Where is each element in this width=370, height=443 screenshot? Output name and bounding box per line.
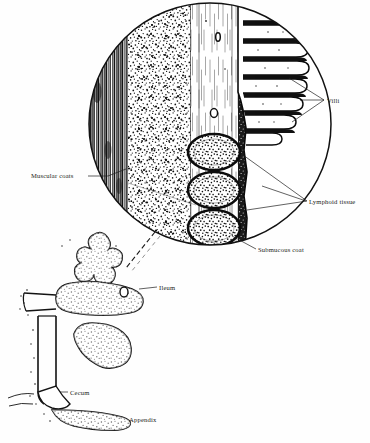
lymphoid-follicle: [188, 172, 240, 208]
ileum-vessel-section: [120, 287, 128, 297]
lymphoid-follicles-group: [188, 134, 240, 246]
label-appendix: Appendix: [129, 416, 156, 423]
label-villi: Villi: [327, 97, 340, 104]
label-submucous-coat: Submucous coat: [258, 246, 304, 253]
muscular-coats-layer: [80, 0, 128, 250]
mucous-coat-layer: [128, 0, 191, 250]
figure-canvas: [0, 0, 370, 443]
inset-circle-group: [80, 0, 350, 250]
lymphoid-follicle: [188, 210, 240, 246]
label-ileum: Ileum: [159, 284, 175, 291]
anatomy-figure: Villi Lymphoid tissue Submucous coat Mus…: [0, 0, 370, 443]
organ-drawing: [8, 233, 143, 431]
label-cecum: Cecum: [70, 389, 90, 396]
label-muscular-coats: Muscular coats: [31, 172, 74, 179]
inset-connector: [126, 232, 160, 272]
label-lymphoid-tissue: Lymphoid tissue: [309, 198, 355, 205]
lymphoid-follicle: [188, 134, 240, 170]
